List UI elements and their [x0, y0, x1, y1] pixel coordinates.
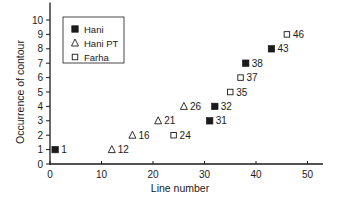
data-point: 38 — [242, 58, 263, 69]
x-axis-label: Line number — [151, 182, 210, 194]
y-tick-label: 5 — [37, 87, 43, 98]
filled-square-marker-icon — [206, 118, 213, 125]
data-point-label: 37 — [247, 72, 259, 83]
open-triangle-marker-icon — [155, 117, 162, 124]
open-square-marker-icon — [171, 132, 177, 138]
y-tick-label: 0 — [37, 159, 43, 170]
filled-square-marker-icon — [52, 146, 59, 153]
data-point-label: 32 — [221, 101, 233, 112]
x-tick-label: 10 — [96, 169, 108, 180]
data-point-label: 43 — [277, 43, 289, 54]
open-square-marker-icon — [238, 75, 244, 81]
filled-square-marker-icon — [268, 46, 275, 53]
data-point: 1 — [52, 144, 67, 155]
y-axis-label: Occurrence of contour — [14, 40, 26, 144]
y-tick-label: 1 — [37, 144, 43, 155]
open-triangle-marker-icon — [108, 146, 115, 153]
data-point: 43 — [268, 43, 289, 54]
filled-square-marker-icon — [212, 103, 219, 110]
open-triangle-marker-icon — [180, 102, 187, 109]
data-point: 26 — [180, 101, 201, 112]
data-point: 21 — [155, 115, 176, 126]
legend-label: Hani — [84, 24, 104, 35]
open-triangle-marker-icon — [129, 131, 136, 138]
y-tick-label: 7 — [37, 58, 43, 69]
scatter-chart: 01020304050 012345678910 Line number Occ… — [0, 0, 338, 207]
data-point-label: 24 — [180, 130, 192, 141]
data-point-label: 12 — [118, 144, 130, 155]
legend-label: Hani PT — [84, 38, 119, 49]
open-square-marker-icon — [228, 89, 234, 95]
data-point: 37 — [238, 72, 258, 83]
filled-square-marker-icon — [242, 60, 249, 66]
data-point-label: 46 — [293, 29, 305, 40]
data-point: 16 — [129, 130, 150, 141]
series-hani-pt: 12162126 — [108, 101, 201, 155]
data-point: 35 — [228, 87, 248, 98]
data-point-label: 31 — [216, 115, 228, 126]
data-point: 12 — [108, 144, 129, 155]
data-point: 24 — [171, 130, 191, 141]
x-tick-label: 50 — [302, 169, 314, 180]
y-tick-label: 3 — [37, 115, 43, 126]
data-point: 46 — [284, 29, 304, 40]
filled-square-marker-icon — [72, 26, 79, 33]
y-tick-label: 10 — [32, 15, 44, 26]
data-point-label: 16 — [138, 130, 150, 141]
y-tick-label: 6 — [37, 72, 43, 83]
x-tick-label: 40 — [250, 169, 262, 180]
y-tick-label: 4 — [37, 101, 43, 112]
data-point-label: 1 — [61, 144, 67, 155]
legend-label: Farha — [84, 52, 110, 63]
x-tick-label: 30 — [199, 169, 211, 180]
y-tick-label: 8 — [37, 43, 43, 54]
legend: HaniHani PTFarha — [63, 17, 124, 63]
data-point: 31 — [206, 115, 227, 126]
data-point: 32 — [212, 101, 233, 112]
data-point-label: 26 — [190, 101, 202, 112]
open-square-marker-icon — [284, 32, 290, 38]
y-tick-label: 9 — [37, 29, 43, 40]
x-tick-label: 20 — [147, 169, 159, 180]
data-point-label: 38 — [252, 58, 264, 69]
x-tick-label: 0 — [47, 169, 53, 180]
y-axis-ticks: 012345678910 — [32, 15, 50, 170]
data-point-label: 21 — [164, 115, 176, 126]
open-square-marker-icon — [72, 54, 78, 60]
y-tick-label: 2 — [37, 130, 43, 141]
data-point-label: 35 — [236, 87, 248, 98]
